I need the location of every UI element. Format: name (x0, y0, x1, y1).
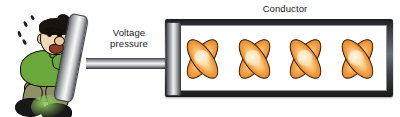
conductor-box (165, 19, 393, 97)
electron-1 (180, 32, 224, 84)
electron-4 (334, 32, 378, 84)
push-rod (86, 58, 176, 69)
man-eye-left (47, 31, 52, 37)
conductor-interior (171, 25, 387, 91)
conductor-label: Conductor (240, 3, 330, 14)
electron-3 (283, 32, 327, 84)
sweat-drop-icon (23, 21, 28, 28)
voltage-pressure-label: Voltage pressure (98, 27, 160, 49)
electron-2 (231, 32, 275, 84)
sweat-drop-icon (17, 31, 22, 38)
diagram-canvas: Voltage pressure Conductor (0, 0, 400, 117)
sweat-drop-icon (30, 15, 35, 21)
sweat-drop-icon (22, 39, 28, 46)
piston-head (166, 22, 181, 96)
